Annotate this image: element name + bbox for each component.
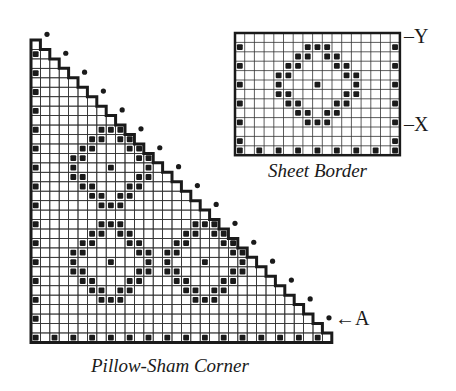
sheet-border-caption: Sheet Border	[268, 160, 367, 182]
x-label-text: X	[414, 113, 428, 135]
x-label: –X	[404, 113, 428, 136]
arrow-left-icon: ←	[335, 307, 355, 329]
pattern-diagram	[0, 0, 456, 391]
a-label-text: A	[355, 307, 369, 329]
pillow-sham-corner-caption: Pillow-Sham Corner	[91, 355, 249, 377]
y-label: –Y	[404, 25, 428, 48]
a-label: ←A	[335, 307, 369, 330]
y-label-text: Y	[414, 25, 428, 47]
